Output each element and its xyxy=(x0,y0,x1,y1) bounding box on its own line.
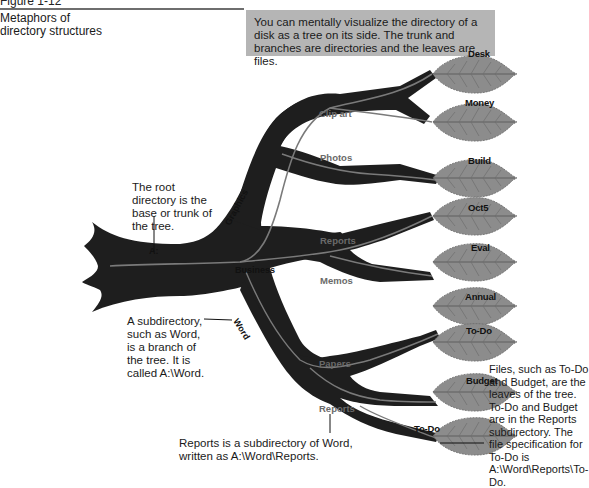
leader-line-subdirectory xyxy=(204,319,232,320)
leaf-money xyxy=(433,104,517,141)
annotation-reports: Reports is a subdirectory of Word, writt… xyxy=(179,437,379,463)
leaf-label: Desk xyxy=(468,48,491,59)
annotation-root: The root directory is the base or trunk … xyxy=(132,181,212,233)
branch-label-word: Word xyxy=(231,317,252,342)
trunk xyxy=(82,70,440,442)
leaf-label: To-Do xyxy=(414,423,440,434)
annotation-files: Files, such as To-Do and Budget, are the… xyxy=(489,363,589,488)
branch-label-reports-business: Reports xyxy=(320,235,356,246)
branch-label-photos: Photos xyxy=(320,152,352,163)
annotation-subdirectory: A subdirectory, such as Word, is a branc… xyxy=(127,315,207,380)
leaf-label: To-Do xyxy=(466,325,492,336)
leaf-label: Eval xyxy=(471,242,490,253)
leaf-label: Build xyxy=(468,155,491,166)
leaf-desk xyxy=(433,56,517,93)
branch-label-reports-word: Reports xyxy=(319,403,355,414)
leaf-label: Money xyxy=(465,97,495,108)
leaf-label: Oct5 xyxy=(468,202,489,213)
branch-label-business: Business xyxy=(235,265,275,275)
leaf-label: Annual xyxy=(465,291,496,302)
branch-label-clip-art: Clip art xyxy=(319,108,353,119)
branch-label-papers: Papers xyxy=(319,358,351,369)
branch-label-memos: Memos xyxy=(320,275,353,286)
